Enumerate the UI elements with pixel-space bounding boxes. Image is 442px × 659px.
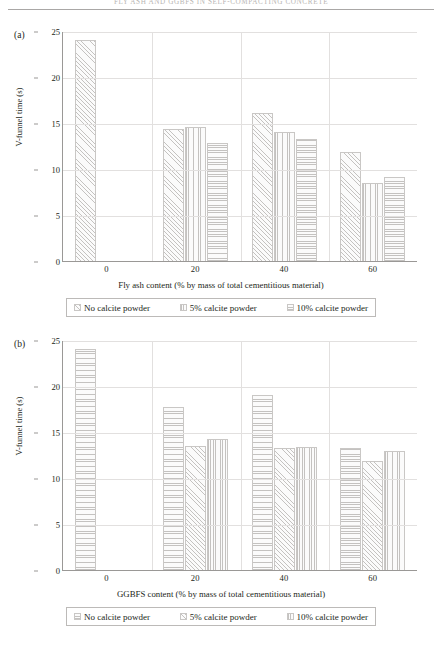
gridline-vertical xyxy=(152,341,153,570)
legend-a: No calcite powder5% calcite powder10% ca… xyxy=(66,298,376,317)
bar xyxy=(252,113,273,261)
y-axis-b: 0510152025 xyxy=(34,341,60,571)
legend-item: 5% calcite powder xyxy=(180,303,257,313)
y-tick-label: 10 xyxy=(51,474,60,484)
bar-group xyxy=(329,32,418,261)
bar xyxy=(163,129,184,261)
x-tick-label: 0 xyxy=(62,573,151,589)
y-tick-mark xyxy=(34,262,38,263)
y-tick-mark xyxy=(34,571,38,572)
bar xyxy=(362,183,383,261)
bar xyxy=(185,446,206,570)
legend-swatch-icon xyxy=(180,304,187,311)
y-tick-label: 25 xyxy=(51,27,60,37)
x-tick-label: 40 xyxy=(240,573,329,589)
legend-b: No calcite powder5% calcite powder10% ca… xyxy=(66,607,376,626)
legend-swatch-icon xyxy=(287,613,294,620)
bar xyxy=(163,407,184,570)
bar xyxy=(362,461,383,570)
bar-group xyxy=(329,341,418,570)
gridline-vertical xyxy=(329,341,330,570)
bar xyxy=(340,152,361,261)
header-rule xyxy=(8,9,434,10)
x-axis-a: 0204060 xyxy=(62,264,417,280)
y-tick-mark xyxy=(34,216,38,217)
bar xyxy=(185,127,206,261)
x-tick-label: 0 xyxy=(62,264,151,280)
y-tick-label: 20 xyxy=(51,73,60,83)
y-tick-mark xyxy=(34,433,38,434)
y-tick-label: 20 xyxy=(51,382,60,392)
plot-frame-a xyxy=(62,32,417,262)
legend-item: 10% calcite powder xyxy=(287,303,368,313)
x-tick-label: 40 xyxy=(240,264,329,280)
gridline-vertical xyxy=(329,32,330,261)
plot-area-a: 0510152025 xyxy=(62,32,417,262)
legend-swatch-icon xyxy=(180,613,187,620)
y-axis-a: 0510152025 xyxy=(34,32,60,262)
legend-item: No calcite powder xyxy=(74,612,150,622)
panel-label-a: (a) xyxy=(14,30,25,40)
x-axis-title-b: GGBFS content (% by mass of total cement… xyxy=(0,589,442,599)
y-tick-label: 5 xyxy=(56,211,60,221)
figure-panel-a: (a) V-funnel time (s) 0510152025 0204060… xyxy=(0,24,442,327)
y-tick-label: 10 xyxy=(51,165,60,175)
bar xyxy=(274,132,295,261)
bar xyxy=(207,439,228,570)
bar-group xyxy=(240,341,329,570)
y-axis-title-a: V-funnel time (s) xyxy=(14,57,24,177)
running-head: FLY ASH AND GGBFS IN SELF-COMPACTING CON… xyxy=(0,0,442,7)
bar xyxy=(252,395,273,570)
bar-group xyxy=(152,341,241,570)
bar-group xyxy=(63,32,152,261)
bar xyxy=(75,349,96,570)
y-tick-label: 25 xyxy=(51,336,60,346)
bar-group xyxy=(152,32,241,261)
figure-panel-b: (b) V-funnel time (s) 0510152025 0204060… xyxy=(0,333,442,651)
y-tick-mark xyxy=(34,525,38,526)
bar xyxy=(296,139,317,261)
y-tick-mark xyxy=(34,124,38,125)
y-tick-mark xyxy=(34,479,38,480)
legend-swatch-icon xyxy=(287,304,294,311)
x-axis-b: 0204060 xyxy=(62,573,417,589)
y-tick-mark xyxy=(34,387,38,388)
x-tick-label: 20 xyxy=(151,264,240,280)
x-tick-label: 60 xyxy=(328,264,417,280)
x-axis-title-a: Fly ash content (% by mass of total ceme… xyxy=(0,280,442,290)
legend-label: 5% calcite powder xyxy=(190,303,257,313)
y-tick-label: 0 xyxy=(56,257,60,267)
x-tick-label: 20 xyxy=(151,573,240,589)
bar xyxy=(384,451,405,570)
bar-group xyxy=(63,341,152,570)
y-tick-label: 5 xyxy=(56,520,60,530)
bar xyxy=(274,448,295,570)
y-axis-title-b: V-funnel time (s) xyxy=(14,366,24,486)
legend-item: 5% calcite powder xyxy=(180,612,257,622)
y-tick-mark xyxy=(34,170,38,171)
y-tick-mark xyxy=(34,32,38,33)
gridline-vertical xyxy=(241,341,242,570)
legend-label: No calcite powder xyxy=(84,612,150,622)
plot-frame-b xyxy=(62,341,417,571)
bar-group xyxy=(240,32,329,261)
y-tick-mark xyxy=(34,341,38,342)
y-tick-label: 0 xyxy=(56,566,60,576)
bar xyxy=(340,448,361,570)
bar xyxy=(75,40,96,261)
legend-swatch-icon xyxy=(74,613,81,620)
legend-label: No calcite powder xyxy=(84,303,150,313)
gridline-vertical xyxy=(241,32,242,261)
bar xyxy=(384,177,405,261)
bar xyxy=(207,143,228,261)
gridline-vertical xyxy=(152,32,153,261)
legend-label: 5% calcite powder xyxy=(190,612,257,622)
legend-label: 10% calcite powder xyxy=(297,612,368,622)
legend-swatch-icon xyxy=(74,304,81,311)
legend-item: No calcite powder xyxy=(74,303,150,313)
bar xyxy=(296,447,317,570)
plot-area-b: 0510152025 xyxy=(62,341,417,571)
legend-item: 10% calcite powder xyxy=(287,612,368,622)
legend-label: 10% calcite powder xyxy=(297,303,368,313)
y-tick-label: 15 xyxy=(51,428,60,438)
